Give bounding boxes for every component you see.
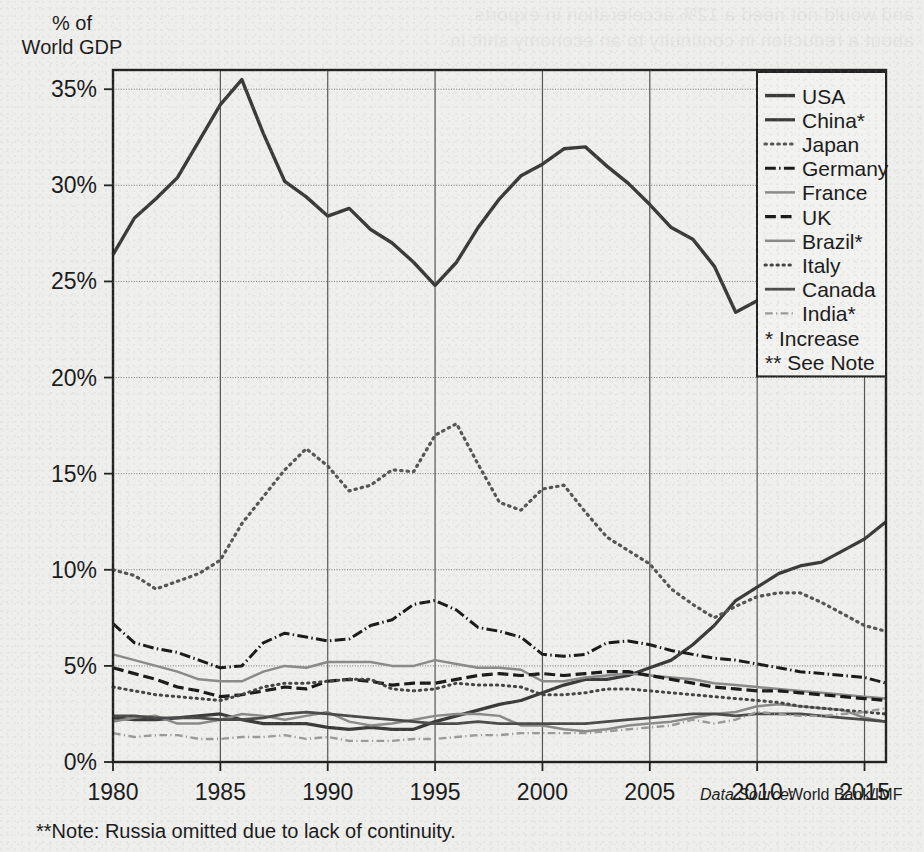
y-tick-label: 20% [51, 365, 97, 391]
x-tick-label: 2005 [624, 779, 675, 805]
gdp-share-chart-figure: 0%5%10%15%20%25%30%35% 19801985199019952… [0, 0, 924, 852]
legend-label-france: France [802, 181, 867, 204]
x-tick-label: 1980 [87, 779, 138, 805]
chart-legend: USAChina*JapanGermanyFranceUKBrazil*Ital… [757, 72, 889, 376]
legend-label-china: China* [802, 109, 865, 132]
legend-label-canada: Canada [802, 278, 876, 301]
legend-label-india: India* [802, 302, 856, 325]
x-tick-label: 1985 [195, 779, 246, 805]
x-tick-label: 2000 [517, 779, 568, 805]
y-axis-tick-labels: 0%5%10%15%20%25%30%35% [51, 76, 97, 775]
legend-label-brazil: Brazil* [802, 230, 863, 253]
x-tick-label: 1990 [302, 779, 353, 805]
y-axis-title-line-2: World GDP [22, 36, 123, 58]
y-tick-label: 10% [51, 557, 97, 583]
footnote-note: **Note: Russia omitted due to lack of co… [36, 820, 456, 842]
y-tick-label: 35% [51, 76, 97, 102]
y-axis-title-line-1: % of [52, 12, 92, 34]
x-tick-label: 1995 [409, 779, 460, 805]
y-tick-label: 0% [64, 749, 97, 775]
y-tick-label: 5% [64, 653, 97, 679]
legend-label-japan: Japan [802, 133, 859, 156]
source-prefix: Data Source: [700, 786, 793, 803]
y-tick-label: 30% [51, 172, 97, 198]
legend-label-uk: UK [802, 206, 831, 229]
source-value: World Bank/IMF [788, 786, 903, 803]
y-tick-label: 25% [51, 268, 97, 294]
legend-footnote-2: ** See Note [765, 351, 875, 374]
legend-label-usa: USA [802, 85, 845, 108]
legend-label-germany: Germany [802, 157, 889, 180]
y-tick-label: 15% [51, 461, 97, 487]
legend-label-italy: Italy [802, 254, 841, 277]
chart-canvas: 0%5%10%15%20%25%30%35% 19801985199019952… [0, 0, 924, 852]
legend-footnote-1: * Increase [765, 327, 860, 350]
